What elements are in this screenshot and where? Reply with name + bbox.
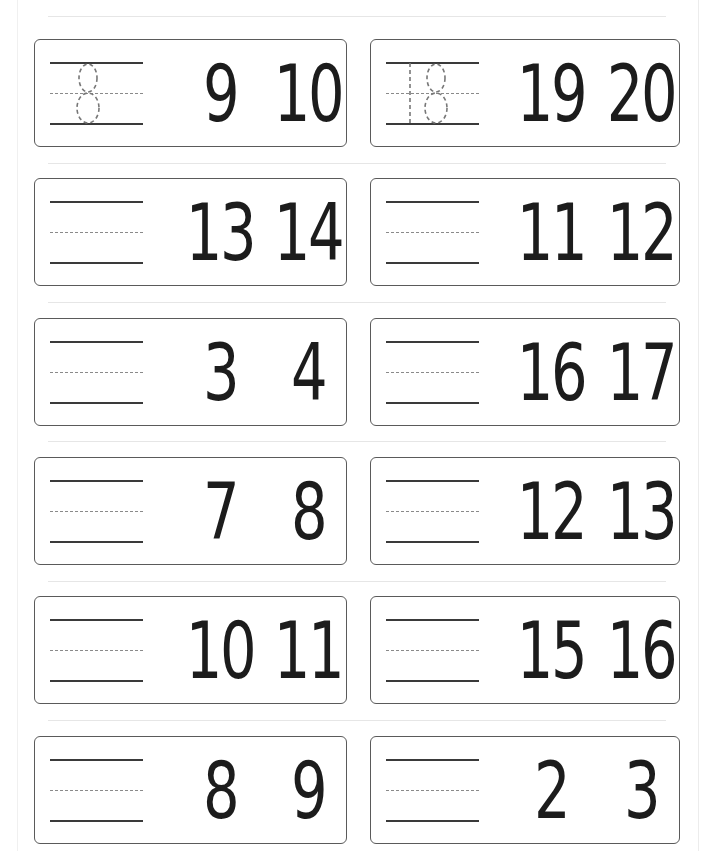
guide-line-midline: [50, 372, 143, 373]
number-pair: 12 13: [491, 458, 679, 564]
answer-writing-area[interactable]: [50, 619, 143, 683]
number-pair: 10 11: [155, 597, 346, 703]
guide-line-midline: [386, 511, 479, 512]
number-pair: 13 14: [155, 179, 346, 285]
guide-line-midline: [50, 650, 143, 651]
given-number-1: 16: [514, 333, 588, 413]
guide-line-bottom: [50, 680, 143, 682]
guide-line-top: [386, 341, 479, 343]
guide-line-bottom: [50, 820, 143, 822]
number-pair: 7 8: [155, 458, 346, 564]
given-number-1: 9: [183, 54, 257, 134]
given-number-1: 13: [183, 193, 257, 273]
number-pair: 8 9: [155, 737, 346, 843]
given-number-2: 17: [604, 333, 678, 413]
guide-line-bottom: [386, 680, 479, 682]
answer-writing-area[interactable]: [386, 759, 479, 823]
given-number-2: 11: [271, 611, 345, 691]
answer-writing-area[interactable]: [386, 201, 479, 265]
page-edge-left: [17, 0, 18, 851]
answer-writing-area[interactable]: 18: [386, 62, 479, 126]
guide-line-top: [386, 759, 479, 761]
number-pair: 15 16: [491, 597, 679, 703]
guide-line-midline: [386, 650, 479, 651]
answer-writing-area[interactable]: 8: [50, 62, 143, 126]
guide-line-top: [50, 201, 143, 203]
row-separator: [48, 581, 666, 582]
answer-writing-area[interactable]: [386, 619, 479, 683]
exercise-card: 13 14: [34, 178, 347, 286]
guide-line-bottom: [50, 262, 143, 264]
given-number-1: 11: [514, 193, 588, 273]
guide-line-midline: [50, 511, 143, 512]
given-number-2: 4: [271, 333, 345, 413]
number-pair: 19 20: [491, 40, 679, 146]
exercise-card: 10 11: [34, 596, 347, 704]
guide-line-bottom: [386, 262, 479, 264]
given-number-2: 3: [604, 751, 678, 831]
guide-line-top: [386, 480, 479, 482]
guide-line-bottom: [386, 402, 479, 404]
given-number-1: 15: [514, 611, 588, 691]
given-number-1: 2: [514, 751, 588, 831]
answer-writing-area[interactable]: [386, 480, 479, 544]
number-pair: 11 12: [491, 179, 679, 285]
given-number-2: 20: [604, 54, 678, 134]
exercise-card: 15 16: [370, 596, 680, 704]
given-number-1: 3: [183, 333, 257, 413]
given-number-2: 14: [271, 193, 345, 273]
exercise-card: 3 4: [34, 318, 347, 426]
given-number-2: 12: [604, 193, 678, 273]
exercise-card: 7 8: [34, 457, 347, 565]
number-pair: 9 10: [155, 40, 346, 146]
traced-example-digit-18: [386, 62, 479, 126]
row-separator: [48, 302, 666, 303]
guide-line-top: [386, 201, 479, 203]
row-separator: [48, 720, 666, 721]
exercise-card: 16 17: [370, 318, 680, 426]
given-number-1: 7: [183, 472, 257, 552]
guide-line-top: [50, 619, 143, 621]
guide-line-midline: [386, 372, 479, 373]
answer-writing-area[interactable]: [50, 341, 143, 405]
guide-line-top: [50, 759, 143, 761]
given-number-1: 12: [514, 472, 588, 552]
page-edge-right: [698, 0, 699, 851]
guide-line-bottom: [50, 541, 143, 543]
exercise-card: 2 3: [370, 736, 680, 844]
exercise-card: 8 9: [34, 736, 347, 844]
exercise-card: 12 13: [370, 457, 680, 565]
number-pair: 16 17: [491, 319, 679, 425]
answer-writing-area[interactable]: [50, 759, 143, 823]
given-number-2: 10: [271, 54, 345, 134]
exercise-card: 18 19 20: [370, 39, 680, 147]
given-number-2: 13: [604, 472, 678, 552]
guide-line-top: [50, 480, 143, 482]
number-pair: 2 3: [491, 737, 679, 843]
exercise-card: 8 9 10: [34, 39, 347, 147]
traced-example-digit-8: [50, 62, 143, 126]
guide-line-midline: [386, 790, 479, 791]
answer-writing-area[interactable]: [50, 480, 143, 544]
row-separator: [48, 163, 666, 164]
guide-line-top: [386, 619, 479, 621]
given-number-2: 9: [271, 751, 345, 831]
row-separator: [48, 441, 666, 442]
guide-line-bottom: [386, 541, 479, 543]
guide-line-midline: [50, 790, 143, 791]
given-number-2: 16: [604, 611, 678, 691]
answer-writing-area[interactable]: [50, 201, 143, 265]
answer-writing-area[interactable]: [386, 341, 479, 405]
guide-line-midline: [386, 232, 479, 233]
given-number-1: 10: [183, 611, 257, 691]
guide-line-bottom: [50, 402, 143, 404]
guide-line-midline: [50, 232, 143, 233]
guide-line-bottom: [386, 820, 479, 822]
number-pair: 3 4: [155, 319, 346, 425]
guide-line-top: [50, 341, 143, 343]
given-number-1: 8: [183, 751, 257, 831]
given-number-1: 19: [514, 54, 588, 134]
row-separator: [48, 16, 666, 17]
exercise-card: 11 12: [370, 178, 680, 286]
given-number-2: 8: [271, 472, 345, 552]
